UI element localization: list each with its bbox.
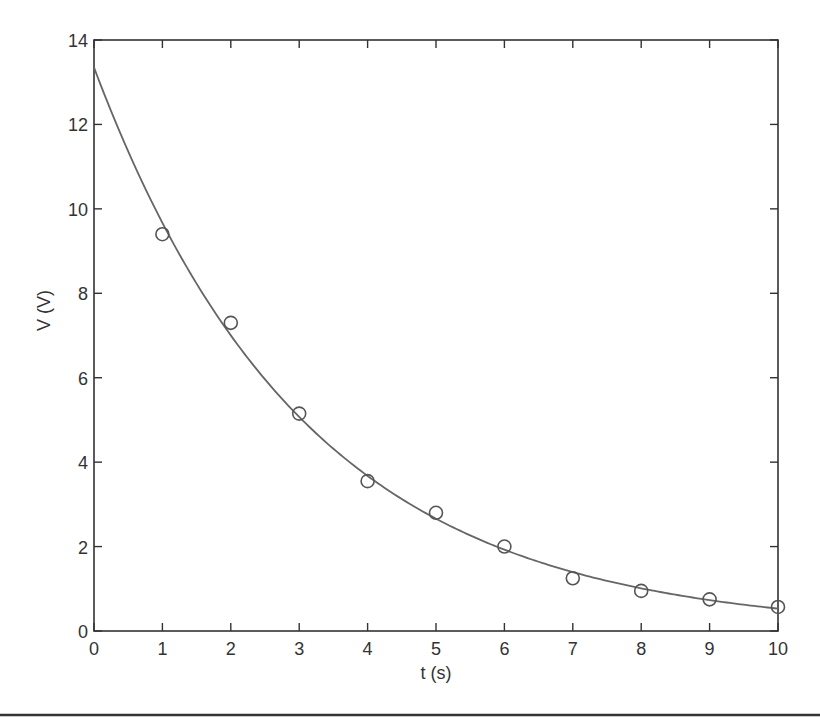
- x-tick-label: 2: [226, 639, 236, 659]
- y-tick-label: 12: [68, 115, 88, 135]
- y-tick-label: 2: [78, 538, 88, 558]
- x-axis-label: t (s): [421, 663, 452, 683]
- data-point: [566, 572, 579, 585]
- plot-frame: [94, 40, 778, 631]
- x-tick-label: 9: [705, 639, 715, 659]
- x-tick-label: 10: [768, 639, 788, 659]
- y-tick-label: 4: [78, 453, 88, 473]
- y-tick-label: 10: [68, 200, 88, 220]
- y-tick-label: 8: [78, 284, 88, 304]
- data-point: [156, 228, 169, 241]
- x-tick-label: 0: [89, 639, 99, 659]
- data-point: [224, 316, 237, 329]
- x-tick-label: 1: [157, 639, 167, 659]
- x-tick-label: 5: [431, 639, 441, 659]
- x-tick-label: 4: [363, 639, 373, 659]
- x-tick-label: 3: [294, 639, 304, 659]
- x-tick-label: 6: [499, 639, 509, 659]
- y-tick-label: 0: [78, 622, 88, 642]
- chart: 012345678910 02468101214 t (s) V (V): [0, 0, 820, 723]
- data-point: [430, 506, 443, 519]
- data-point: [635, 584, 648, 597]
- y-tick-label: 6: [78, 369, 88, 389]
- data-point: [498, 540, 511, 553]
- x-tick-label: 8: [636, 639, 646, 659]
- y-axis-label: V (V): [34, 290, 54, 331]
- x-tick-label: 7: [568, 639, 578, 659]
- fit-curve: [94, 67, 778, 608]
- y-tick-label: 14: [68, 31, 88, 51]
